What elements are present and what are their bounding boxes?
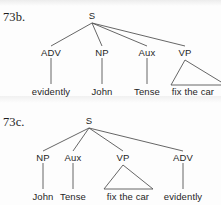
syntax-tree-figure: 73b. S ADV NP Aux VP evidently John Tens… (0, 0, 221, 205)
tree-73c-vp-triangle (104, 165, 153, 189)
tree-73b-branch-adv-0 (51, 23, 92, 46)
tree-73c-branch-aux-1 (73, 128, 89, 151)
tree-73c-branch-vp-2 (89, 128, 123, 151)
tree-73c-branch-adv-3 (89, 128, 183, 151)
tree-73b-vp-triangle (171, 60, 221, 85)
tree-73c-branch-np-0 (43, 128, 89, 151)
tree-edges-canvas (0, 0, 221, 205)
